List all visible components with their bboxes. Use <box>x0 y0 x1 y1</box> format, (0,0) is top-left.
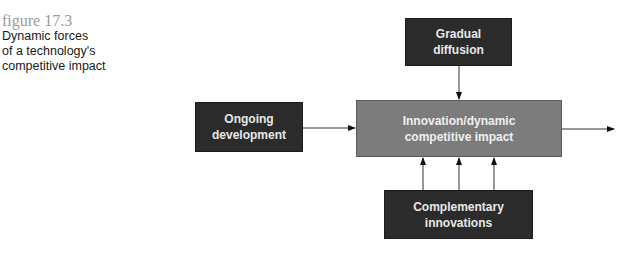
node-gradual-diffusion: Gradual diffusion <box>405 18 512 66</box>
node-label: diffusion <box>433 42 484 58</box>
node-ongoing-development: Ongoing development <box>195 102 303 152</box>
node-label: Innovation/dynamic <box>403 113 516 129</box>
node-complementary-innovations: Complementary innovations <box>384 190 533 239</box>
node-label: Ongoing <box>212 111 286 127</box>
node-label: innovations <box>413 215 504 231</box>
node-label: development <box>212 127 286 143</box>
node-label: competitive impact <box>403 129 516 145</box>
node-label: Complementary <box>413 199 504 215</box>
node-innovation-impact: Innovation/dynamic competitive impact <box>356 100 562 157</box>
node-label: Gradual <box>433 26 484 42</box>
